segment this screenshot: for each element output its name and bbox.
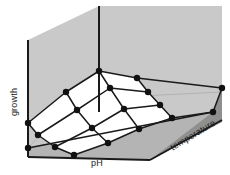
vertex-marker [105,140,111,146]
vertex-marker [25,145,31,151]
vertex-marker [136,126,142,132]
vertex-marker [35,132,41,138]
vertex-marker [25,120,31,126]
vertex-marker [107,85,113,91]
vertex-marker [169,115,175,121]
surface-plot-canvas [0,0,230,175]
vertex-marker [52,144,58,150]
vertex-marker [145,89,151,95]
vertex-marker [157,102,163,108]
vertex-marker [89,125,95,131]
ph-axis-label: pH [77,158,117,168]
growth-axis-label: growth [9,79,19,125]
vertex-marker [121,106,127,112]
vertex-marker [63,89,69,95]
vertex-marker [96,68,102,74]
vertex-marker [219,85,225,91]
vertex-marker [134,75,140,81]
surface-plot-figure: growth pH temperature [0,0,230,175]
vertex-marker [74,107,80,113]
